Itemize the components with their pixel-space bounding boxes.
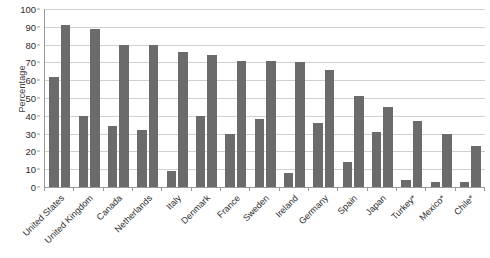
bar	[178, 52, 188, 187]
bar	[237, 61, 247, 187]
x-axis-tick-mark	[191, 187, 192, 191]
x-axis-tick-label: Sweden	[123, 193, 271, 258]
y-axis-tick-label: 0	[31, 182, 36, 193]
bar-group	[284, 9, 305, 187]
bars-layer	[45, 9, 485, 187]
bar	[61, 25, 71, 187]
y-axis-tick-mark	[37, 187, 40, 188]
bar-group	[460, 9, 481, 187]
x-axis-tick-mark	[484, 187, 485, 191]
bar	[149, 45, 159, 187]
bar	[108, 126, 118, 187]
y-axis-tick-label: 90	[25, 21, 36, 32]
bar	[284, 173, 294, 187]
x-axis-tick-label: Spain	[211, 193, 359, 258]
bar	[137, 130, 147, 187]
bar-group	[372, 9, 393, 187]
bar	[313, 123, 323, 187]
y-axis-tick-mark	[37, 44, 40, 45]
x-axis-tick-mark	[396, 187, 397, 191]
y-axis-tick-mark	[37, 133, 40, 134]
y-axis-tick-label: 10	[25, 164, 36, 175]
bar	[79, 116, 89, 187]
x-axis-tick-marks	[44, 187, 485, 192]
bar-group	[401, 9, 422, 187]
x-axis-tick-label: United Kingdom	[0, 193, 95, 258]
bar	[372, 132, 382, 187]
bar-group	[313, 9, 334, 187]
x-axis-tick-label: Italy	[35, 193, 183, 258]
x-axis-tick-mark	[455, 187, 456, 191]
x-axis-tick-mark	[425, 187, 426, 191]
bar	[167, 171, 177, 187]
bar	[325, 70, 335, 187]
bar	[225, 134, 235, 187]
y-axis-tick-label: 60	[25, 75, 36, 86]
x-axis-tick-mark	[337, 187, 338, 191]
bar	[266, 61, 276, 187]
x-axis-tick-label: Germany	[181, 193, 329, 258]
bar	[471, 146, 481, 187]
x-axis-tick-label: Mexico*	[299, 193, 447, 258]
bar	[207, 55, 217, 187]
bar	[343, 162, 353, 187]
x-axis-tick-label: Netherlands	[5, 193, 153, 258]
bar	[255, 119, 265, 187]
x-axis-tick-label: Japan	[240, 193, 388, 258]
x-axis-tick-mark	[367, 187, 368, 191]
bar	[90, 29, 100, 187]
bar-group	[225, 9, 246, 187]
x-axis-tick-label: Turkey*	[269, 193, 417, 258]
x-axis-tick-label: United States	[0, 193, 66, 258]
bar-group	[196, 9, 217, 187]
x-axis-tick-mark	[73, 187, 74, 191]
y-axis-tick-label: 100	[20, 4, 36, 15]
bar	[196, 116, 206, 187]
y-axis-tick-label: 40	[25, 110, 36, 121]
y-axis-tick-label: 30	[25, 128, 36, 139]
x-axis-tick-mark	[44, 187, 45, 191]
bar	[49, 77, 59, 187]
y-axis-tick-mark	[37, 80, 40, 81]
bar	[413, 121, 423, 187]
y-axis-tick-mark	[37, 9, 40, 10]
x-axis-tick-label: France	[93, 193, 241, 258]
y-axis-tick-mark	[37, 98, 40, 99]
bar-group	[343, 9, 364, 187]
x-axis-tick-mark	[220, 187, 221, 191]
y-axis-tick-label: 80	[25, 39, 36, 50]
bar	[354, 96, 364, 187]
y-axis-tick-label: 20	[25, 146, 36, 157]
y-axis-tick-mark	[37, 62, 40, 63]
y-axis-tick-mark	[37, 26, 40, 27]
x-axis-tick-mark	[103, 187, 104, 191]
y-axis-tick-mark	[37, 151, 40, 152]
x-axis-tick-label: Ireland	[152, 193, 300, 258]
x-axis-tick-mark	[279, 187, 280, 191]
bar-group	[431, 9, 452, 187]
plot-area	[44, 9, 485, 188]
y-axis-tick-label: 70	[25, 57, 36, 68]
bar	[383, 107, 393, 187]
x-axis-tick-mark	[249, 187, 250, 191]
y-axis-tick-labels: 0102030405060708090100	[0, 9, 40, 187]
x-axis-tick-label: Denmark	[64, 193, 212, 258]
bar-group	[137, 9, 158, 187]
bar	[401, 180, 411, 187]
bar	[442, 134, 452, 187]
bar-group	[255, 9, 276, 187]
x-axis-tick-mark	[308, 187, 309, 191]
y-axis-tick-mark	[37, 169, 40, 170]
bar	[119, 45, 129, 187]
x-axis-tick-label: Canada	[0, 193, 124, 258]
bar-group	[108, 9, 129, 187]
x-axis-tick-label: Chile*	[328, 193, 476, 258]
bar	[295, 62, 305, 187]
bar-group	[79, 9, 100, 187]
y-axis-tick-label: 50	[25, 93, 36, 104]
bar-chart: Percentage 0102030405060708090100 United…	[0, 0, 490, 258]
y-axis-tick-mark	[37, 115, 40, 116]
x-axis-tick-mark	[161, 187, 162, 191]
x-axis-tick-mark	[132, 187, 133, 191]
bar-group	[49, 9, 70, 187]
